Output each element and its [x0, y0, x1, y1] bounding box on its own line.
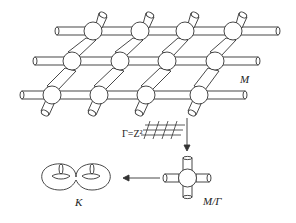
bottom-caps	[40, 100, 201, 117]
gamma-grid-icon	[141, 121, 185, 139]
label-gamma-z2: Γ=Z²	[122, 128, 143, 139]
arrow-down	[184, 118, 190, 151]
lattice-M	[20, 11, 280, 117]
node-caps-top	[96, 11, 248, 28]
label-lattice-m: M	[240, 73, 249, 85]
diag-rods-2-3	[47, 68, 219, 90]
diagram-canvas	[0, 0, 296, 223]
label-surface-k: K	[75, 196, 82, 208]
label-quotient: M/Γ	[203, 195, 221, 207]
genus-two-surface	[42, 164, 111, 190]
quotient-cell	[163, 156, 211, 198]
arrow-left	[123, 175, 160, 181]
